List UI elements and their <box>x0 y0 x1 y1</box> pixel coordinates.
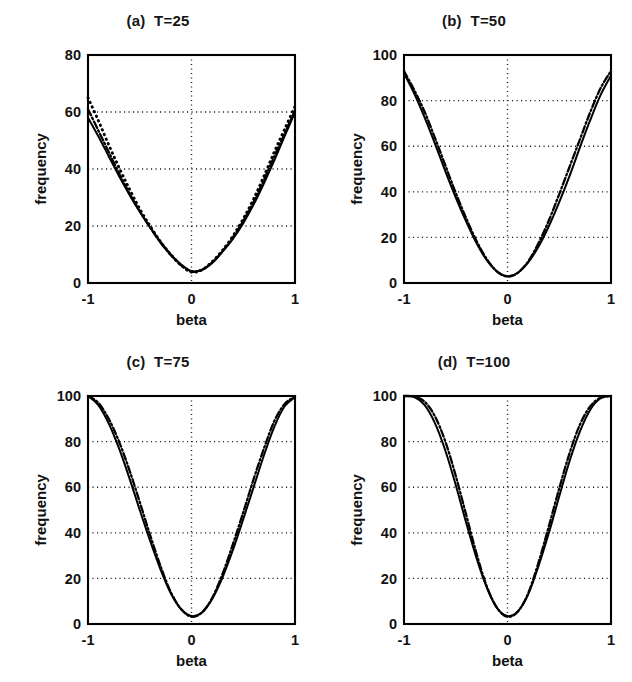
y-tick-label: 80 <box>65 47 81 63</box>
curve-b-dash-dot <box>404 71 611 277</box>
y-axis-label-b: frequency <box>348 133 365 205</box>
y-axis-label-a: frequency <box>32 133 49 205</box>
x-tick-label: -1 <box>398 291 411 307</box>
panel-a: 020406080-101betafrequency(a) T=25 <box>0 0 316 341</box>
panel-b: 020406080100-101betafrequency(b) T=50 <box>316 0 632 341</box>
curve-b-solid <box>404 73 611 276</box>
x-tick-label: -1 <box>398 632 411 648</box>
panel-d: 020406080100-101betafrequency(d) T=100 <box>316 341 632 682</box>
y-axis-label-c: frequency <box>32 474 49 546</box>
panel-c: 020406080100-101betafrequency(c) T=75 <box>0 341 316 682</box>
curve-a-solid <box>88 112 295 271</box>
y-tick-label: 60 <box>381 138 397 154</box>
x-tick-label: 1 <box>607 632 615 648</box>
y-tick-label: 100 <box>57 388 81 404</box>
x-axis-label-d: beta <box>492 652 524 669</box>
y-tick-label: 80 <box>65 434 81 450</box>
gridlines-c <box>88 396 295 624</box>
y-tick-label: 0 <box>389 275 397 291</box>
y-tick-label: 60 <box>65 479 81 495</box>
y-tick-label: 20 <box>381 571 397 587</box>
x-axis-label-c: beta <box>176 652 208 669</box>
y-tick-label: 60 <box>381 479 397 495</box>
y-tick-label: 40 <box>381 184 397 200</box>
y-tick-label: 80 <box>381 434 397 450</box>
x-tick-label: -1 <box>82 632 95 648</box>
y-tick-label: 0 <box>389 616 397 632</box>
panel-title-c: (c) T=75 <box>0 353 316 370</box>
figure-frequency-vs-beta: 020406080-101betafrequency(a) T=25 02040… <box>0 0 632 682</box>
y-tick-label: 20 <box>65 218 81 234</box>
gridlines-b <box>404 55 611 283</box>
y-tick-label: 0 <box>73 616 81 632</box>
y-tick-label: 40 <box>65 525 81 541</box>
gridlines-a <box>88 55 295 283</box>
y-tick-label: 100 <box>373 388 397 404</box>
x-tick-label: 0 <box>187 632 195 648</box>
y-tick-label: 60 <box>65 104 81 120</box>
plot-c: 020406080100-101betafrequency <box>0 341 316 682</box>
y-tick-label: 40 <box>381 525 397 541</box>
curve-d-solid <box>404 396 611 616</box>
y-tick-label: 40 <box>65 161 81 177</box>
x-tick-label: 0 <box>503 291 511 307</box>
y-tick-label: 20 <box>381 230 397 246</box>
x-tick-label: 1 <box>291 291 299 307</box>
y-tick-label: 20 <box>65 571 81 587</box>
panel-title-b: (b) T=50 <box>316 12 632 29</box>
curve-c-solid <box>88 396 295 616</box>
x-tick-label: 0 <box>187 291 195 307</box>
panel-title-a: (a) T=25 <box>0 12 316 29</box>
y-axis-label-d: frequency <box>348 474 365 546</box>
plot-a: 020406080-101betafrequency <box>0 0 316 341</box>
y-tick-label: 80 <box>381 93 397 109</box>
y-tick-label: 100 <box>373 47 397 63</box>
curve-c-dash-dot <box>88 396 295 617</box>
x-axis-label-b: beta <box>492 311 524 328</box>
x-axis-label-a: beta <box>176 311 208 328</box>
x-tick-label: 1 <box>607 291 615 307</box>
plot-d: 020406080100-101betafrequency <box>316 341 632 682</box>
panel-title-d: (d) T=100 <box>316 353 632 370</box>
plot-b: 020406080100-101betafrequency <box>316 0 632 341</box>
x-tick-label: 0 <box>503 632 511 648</box>
x-tick-label: 1 <box>291 632 299 648</box>
y-tick-label: 0 <box>73 275 81 291</box>
x-tick-label: -1 <box>82 291 95 307</box>
